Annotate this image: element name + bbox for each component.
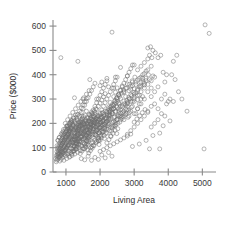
data-point [202, 147, 206, 151]
data-point [159, 97, 163, 101]
data-point [151, 134, 155, 138]
data-point [180, 97, 184, 101]
data-point [163, 92, 167, 96]
data-point [161, 124, 165, 128]
data-point [163, 80, 167, 84]
data-point [153, 102, 157, 106]
data-point [59, 56, 63, 60]
data-point [126, 115, 130, 119]
data-point [136, 68, 140, 72]
data-point [185, 109, 189, 113]
y-tick-label: 500 [32, 45, 46, 55]
data-point [203, 23, 207, 27]
data-point [151, 48, 155, 52]
data-point [171, 59, 175, 63]
data-point [88, 78, 92, 82]
y-tick-label: 300 [32, 94, 46, 104]
data-point [153, 121, 157, 125]
data-point [149, 86, 153, 90]
data-point [159, 53, 163, 57]
y-tick-label: 600 [32, 21, 46, 31]
data-point [156, 118, 160, 122]
data-point [132, 125, 136, 129]
y-tick-label: 0 [41, 167, 46, 177]
data-point [82, 96, 86, 100]
data-point [129, 105, 133, 109]
data-point [105, 79, 109, 83]
data-point [171, 99, 175, 103]
data-point [74, 107, 78, 111]
data-point [142, 61, 146, 65]
data-point [137, 142, 141, 146]
x-tick-labels: 10002000300040005000 [56, 178, 212, 188]
data-point [176, 90, 180, 94]
data-point [148, 147, 152, 151]
x-axis-title: Living Area [113, 195, 155, 205]
data-point [76, 59, 80, 63]
data-point [149, 95, 153, 99]
y-tick-label: 400 [32, 70, 46, 80]
data-point [90, 158, 94, 162]
data-points-layer [54, 23, 211, 164]
data-point [148, 53, 152, 57]
data-point [149, 125, 153, 129]
data-point [103, 92, 107, 96]
data-point [146, 73, 150, 77]
x-tick-label: 4000 [159, 178, 178, 188]
data-point [110, 30, 114, 34]
plot-canvas: 0100200300400500600 10002000300040005000… [0, 0, 230, 228]
data-point [153, 90, 157, 94]
scatter-plot-figure: 0100200300400500600 10002000300040005000… [0, 0, 230, 228]
data-point [133, 75, 137, 79]
data-point [146, 90, 150, 94]
y-tick-labels: 0100200300400500600 [32, 21, 46, 177]
data-point [150, 56, 154, 60]
data-point [139, 118, 143, 122]
data-point [149, 64, 153, 68]
data-point [158, 131, 162, 135]
y-axis-title: Price ($000) [8, 73, 18, 119]
data-point [68, 114, 72, 118]
data-point [158, 147, 162, 151]
data-point [168, 119, 172, 123]
data-point [119, 65, 123, 69]
data-point [175, 53, 179, 57]
data-point [96, 157, 100, 161]
y-tick-label: 100 [32, 143, 46, 153]
data-point [165, 73, 169, 77]
data-point [130, 144, 134, 148]
data-point [153, 51, 157, 55]
data-point [110, 154, 114, 158]
data-point [72, 96, 76, 100]
data-point [156, 107, 160, 111]
data-point [83, 158, 87, 162]
x-tick-label: 2000 [91, 178, 110, 188]
data-point [139, 64, 143, 68]
data-point [103, 156, 107, 160]
x-tick-label: 1000 [56, 178, 75, 188]
data-point [207, 31, 211, 35]
x-tick-label: 5000 [193, 178, 212, 188]
data-point [144, 138, 148, 142]
y-tick-label: 200 [32, 118, 46, 128]
data-point [71, 110, 75, 114]
data-point [163, 114, 167, 118]
data-point [107, 151, 111, 155]
data-point [170, 73, 174, 77]
data-point [156, 85, 160, 89]
data-point [136, 107, 140, 111]
data-point [173, 78, 177, 82]
x-tick-label: 3000 [125, 178, 144, 188]
data-point [93, 81, 97, 85]
